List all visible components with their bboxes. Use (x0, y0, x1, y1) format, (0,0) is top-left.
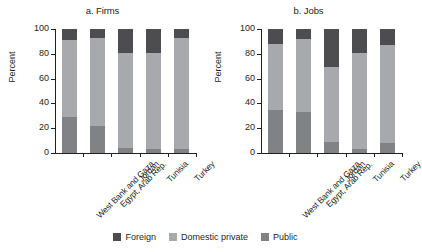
y-tick: 80 (261, 54, 262, 55)
y-tick: 20 (55, 128, 56, 129)
legend-item-domestic: Domestic private (169, 232, 248, 242)
legend-swatch-domestic (169, 233, 177, 241)
bar-jordan (324, 29, 339, 153)
legend-item-public: Public (261, 232, 298, 242)
bar-segment-foreign (174, 29, 189, 38)
bar-segment-public (296, 112, 311, 153)
y-tick: 0 (261, 153, 262, 154)
x-tick-mark (289, 153, 290, 157)
bar-segment-public (90, 126, 105, 153)
y-tick-label: 0 (44, 147, 49, 158)
chart-title-firms: a. Firms (0, 5, 205, 16)
y-axis-label-firms: Percent (7, 37, 17, 97)
y-tick-mark (257, 128, 261, 129)
plot-area-firms: 020406080100West Bank and GazaEgypt, Ara… (55, 29, 196, 153)
bar-segment-domestic (380, 45, 395, 143)
y-tick: 100 (55, 29, 56, 30)
bar-segment-public (174, 149, 189, 153)
y-tick-mark (257, 54, 261, 55)
bar-segment-domestic (90, 38, 105, 126)
x-axis-line (55, 153, 197, 154)
y-tick-mark (51, 54, 55, 55)
y-tick-mark (51, 153, 55, 154)
bar-egypt-arab-rep (90, 29, 105, 153)
y-axis-line (261, 29, 262, 154)
bar-segment-public (380, 143, 395, 153)
x-axis-label: Tunisia (164, 159, 189, 184)
x-tick-mark (402, 153, 403, 157)
bar-tunisia (352, 29, 367, 153)
y-tick-mark (51, 128, 55, 129)
legend-swatch-foreign (113, 233, 121, 241)
x-tick-mark (111, 153, 112, 157)
x-tick-mark (140, 153, 141, 157)
bar-segment-foreign (268, 29, 283, 44)
bar-segment-domestic (174, 38, 189, 150)
y-tick-mark (51, 103, 55, 104)
bar-west-bank-and-gaza (62, 29, 77, 153)
bar-segment-foreign (380, 29, 395, 45)
bar-segment-domestic (268, 44, 283, 110)
y-tick: 60 (55, 79, 56, 80)
legend-label: Public (273, 232, 298, 242)
bar-segment-foreign (62, 29, 77, 40)
y-tick-label: 40 (245, 97, 255, 108)
y-tick-label: 20 (245, 122, 255, 133)
bar-segment-foreign (352, 29, 367, 53)
x-tick-mark (168, 153, 169, 157)
bar-west-bank-and-gaza (268, 29, 283, 153)
bar-segment-foreign (324, 29, 339, 67)
x-tick-mark (374, 153, 375, 157)
chart-panel-jobs: b. Jobs Percent 020406080100West Bank an… (206, 0, 411, 225)
bar-segment-domestic (118, 53, 133, 148)
y-axis-label-jobs: Percent (213, 37, 223, 97)
bar-segment-foreign (146, 29, 161, 53)
y-tick: 60 (261, 79, 262, 80)
bar-segment-public (146, 149, 161, 153)
plot-area-jobs: 020406080100West Bank and GazaEgypt, Ara… (261, 29, 402, 153)
y-tick-label: 60 (39, 73, 49, 84)
x-tick-mark (317, 153, 318, 157)
y-tick-label: 100 (240, 23, 255, 34)
bar-segment-public (62, 117, 77, 153)
bar-turkey (174, 29, 189, 153)
y-tick-label: 80 (245, 48, 255, 59)
y-tick-label: 40 (39, 97, 49, 108)
chart-legend: ForeignDomestic privatePublic (0, 229, 411, 245)
bar-egypt-arab-rep (296, 29, 311, 153)
bar-segment-foreign (296, 29, 311, 39)
y-tick-mark (257, 103, 261, 104)
y-tick-mark (51, 79, 55, 80)
x-axis-line (261, 153, 403, 154)
y-tick: 40 (261, 103, 262, 104)
y-tick-label: 60 (245, 73, 255, 84)
x-tick-mark (346, 153, 347, 157)
y-axis-line (55, 29, 56, 154)
y-tick: 80 (55, 54, 56, 55)
y-tick: 0 (55, 153, 56, 154)
x-tick-mark (196, 153, 197, 157)
bar-segment-foreign (90, 29, 105, 38)
y-tick-label: 0 (250, 147, 255, 158)
legend-item-foreign: Foreign (113, 232, 156, 242)
y-tick: 100 (261, 29, 262, 30)
chart-title-jobs: b. Jobs (206, 5, 411, 16)
y-tick-label: 80 (39, 48, 49, 59)
bar-segment-domestic (62, 40, 77, 117)
bar-segment-foreign (118, 29, 133, 53)
bar-segment-public (268, 110, 283, 153)
x-axis-label: Tunisia (370, 159, 395, 184)
legend-label: Domestic private (181, 232, 248, 242)
bar-tunisia (146, 29, 161, 153)
y-tick-label: 20 (39, 122, 49, 133)
chart-panels: a. Firms Percent 020406080100West Bank a… (0, 0, 411, 225)
bar-segment-public (118, 148, 133, 153)
x-tick-mark (83, 153, 84, 157)
x-axis-label: Turkey (398, 159, 422, 183)
y-tick-mark (51, 29, 55, 30)
y-tick-mark (257, 79, 261, 80)
legend-label: Foreign (125, 232, 156, 242)
bar-segment-domestic (324, 67, 339, 141)
bar-segment-domestic (352, 53, 367, 150)
